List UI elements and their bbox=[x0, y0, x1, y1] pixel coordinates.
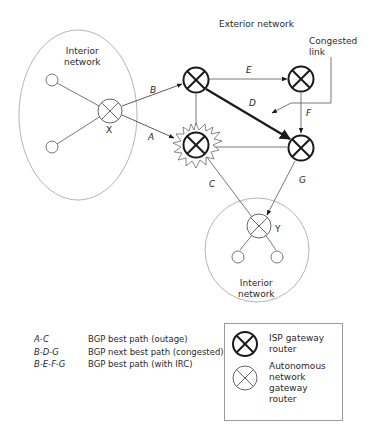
autonomous-router-legend-icon bbox=[231, 364, 259, 392]
link-label-f: F bbox=[306, 108, 311, 119]
link-label-g: G bbox=[299, 175, 306, 186]
interior-network-left-label: Interior network bbox=[64, 46, 101, 68]
isp-router-icon bbox=[184, 133, 209, 158]
path-row: B-E-F-G BGP best path (with IRC) bbox=[34, 358, 224, 371]
path-legend: A-C BGP best path (outage) B-D-G BGP nex… bbox=[34, 333, 224, 371]
path-row: A-C BGP best path (outage) bbox=[34, 333, 224, 346]
link-label-e: E bbox=[246, 65, 252, 76]
isp-router-icon bbox=[289, 67, 314, 92]
legend-isp-router: ISP gateway router bbox=[231, 330, 324, 358]
link-label-d: D bbox=[249, 98, 256, 109]
host-node-icon bbox=[232, 251, 244, 263]
exterior-network-label: Exterior network bbox=[219, 19, 294, 30]
path-description: BGP next best path (congested) bbox=[88, 346, 224, 359]
link-label-c: C bbox=[209, 179, 215, 190]
path-description: BGP best path (outage) bbox=[88, 333, 188, 346]
isp-router-icon bbox=[184, 68, 209, 93]
router-y-label: Y bbox=[275, 224, 281, 235]
congested-link-label: Congested link bbox=[309, 36, 357, 58]
legend-autonomous-router-text: Autonomous network gateway router bbox=[269, 361, 326, 405]
path-description: BGP best path (with IRC) bbox=[88, 358, 193, 371]
path-code: B-D-G bbox=[34, 346, 88, 359]
legend-isp-router-text: ISP gateway router bbox=[269, 333, 324, 355]
link-label-a: A bbox=[148, 132, 154, 143]
host-node-icon bbox=[46, 74, 58, 86]
link-g bbox=[267, 161, 295, 215]
link-label-b: B bbox=[150, 85, 156, 96]
legend-autonomous-router: Autonomous network gateway router bbox=[231, 364, 326, 405]
autonomous-router-y-icon bbox=[247, 214, 271, 238]
path-code: A-C bbox=[34, 333, 88, 346]
path-code: B-E-F-G bbox=[34, 358, 88, 371]
host-node-icon bbox=[46, 141, 58, 153]
link-d bbox=[206, 89, 290, 139]
autonomous-router-x-icon bbox=[98, 99, 122, 123]
interior-network-bottom-label: Interior network bbox=[238, 278, 275, 300]
symbol-legend-box: ISP gateway router Autonomous network ga… bbox=[224, 323, 343, 421]
isp-router-icon bbox=[289, 136, 314, 161]
router-x-label: X bbox=[106, 125, 112, 136]
path-row: B-D-G BGP next best path (congested) bbox=[34, 346, 224, 359]
host-node-icon bbox=[271, 251, 283, 263]
isp-router-legend-icon bbox=[231, 330, 259, 358]
